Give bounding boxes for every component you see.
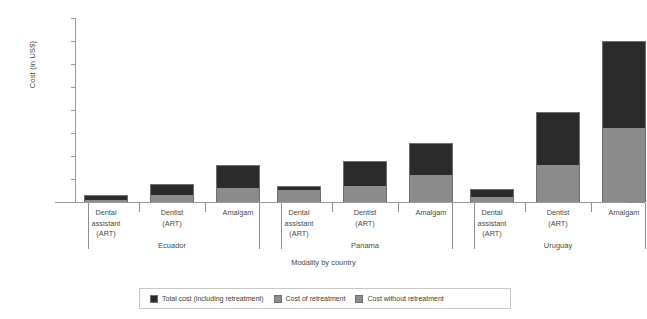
category-divider	[139, 203, 140, 212]
chart-legend: Total cost (including retreatment)Cost o…	[139, 288, 511, 309]
legend-item[interactable]: Cost without retreatment	[355, 295, 443, 303]
bar-uruguay-dentist-art-	[536, 112, 580, 202]
bar-segment-total-cost	[217, 166, 259, 188]
bar-segment-cost-without-retreatment	[217, 188, 259, 203]
category-label-line: (ART)	[268, 229, 330, 240]
category-label: Dentalassistant(ART)	[461, 208, 523, 240]
category-divider	[525, 203, 526, 212]
category-label-line: Amalgam	[207, 208, 269, 219]
y-axis-tickmark	[71, 41, 75, 42]
category-label-line: Dental	[461, 208, 523, 219]
category-divider	[398, 203, 399, 212]
category-label-line: Dentist	[527, 208, 589, 219]
legend-label: Cost of retreatment	[286, 295, 346, 302]
legend-item[interactable]: Total cost (including retreatment)	[150, 295, 264, 303]
category-divider	[591, 203, 592, 212]
category-label-line: (ART)	[527, 219, 589, 230]
category-label: Amalgam	[207, 208, 269, 219]
bar-segment-cost-without-retreatment	[344, 186, 386, 203]
category-divider	[332, 203, 333, 212]
category-label-line: (ART)	[461, 229, 523, 240]
bar-segment-total-cost	[151, 185, 193, 195]
category-label: Amalgam	[593, 208, 647, 219]
bar-ecuador-dental-assistant-art-	[84, 195, 128, 202]
bar-segment-total-cost	[344, 162, 386, 186]
category-label-line: (ART)	[75, 229, 137, 240]
group-label-panama: Panama	[305, 241, 425, 250]
legend-label: Total cost (including retreatment)	[162, 295, 264, 302]
group-label-uruguay: Uruguay	[498, 241, 618, 250]
stacked-bar-chart: Cost (in US$) $0$10,000$20,000$30,000$40…	[0, 0, 647, 319]
category-label-line: assistant	[268, 219, 330, 230]
y-axis-tickmark	[71, 64, 75, 65]
category-label-line: Dentist	[141, 208, 203, 219]
bar-ecuador-dentist-art-	[150, 184, 194, 202]
y-axis-tickmark	[71, 18, 75, 19]
category-label-line: (ART)	[334, 219, 396, 230]
category-label: Dentalassistant(ART)	[268, 208, 330, 240]
category-label-line: assistant	[75, 219, 137, 230]
y-axis-tickmark	[71, 202, 75, 203]
legend-swatch-icon	[274, 295, 282, 303]
bar-panama-dental-assistant-art-	[277, 186, 321, 202]
category-label-line: Amalgam	[400, 208, 462, 219]
plot-area	[76, 18, 627, 202]
group-label-ecuador: Ecuador	[112, 241, 232, 250]
category-label: Dentalassistant(ART)	[75, 208, 137, 240]
y-axis-tickmark	[71, 110, 75, 111]
bar-segment-total-cost	[603, 42, 645, 128]
category-label: Dentist(ART)	[141, 208, 203, 229]
y-axis-tickmark	[71, 87, 75, 88]
bar-uruguay-amalgam	[602, 41, 646, 202]
bar-segment-cost-without-retreatment	[537, 165, 579, 203]
category-label-line: assistant	[461, 219, 523, 230]
legend-swatch-icon	[355, 295, 363, 303]
category-axis: Dentalassistant(ART)Dentist(ART)AmalgamD…	[76, 203, 627, 258]
bar-segment-total-cost	[537, 113, 579, 165]
x-axis-label: Modality by country	[0, 258, 647, 267]
category-label: Dentist(ART)	[334, 208, 396, 229]
legend-label: Cost without retreatment	[367, 295, 443, 302]
bar-segment-total-cost	[410, 144, 452, 175]
bar-uruguay-dental-assistant-art-	[470, 189, 514, 202]
category-label: Dentist(ART)	[527, 208, 589, 229]
bar-segment-cost-without-retreatment	[603, 128, 645, 203]
y-axis-tickmark	[71, 156, 75, 157]
category-divider	[205, 203, 206, 212]
category-label-line: (ART)	[141, 219, 203, 230]
bar-segment-cost-without-retreatment	[410, 175, 452, 203]
y-axis-tickmark	[71, 179, 75, 180]
legend-item[interactable]: Cost of retreatment	[274, 295, 346, 303]
legend-swatch-icon	[150, 295, 158, 303]
bar-panama-amalgam	[409, 143, 453, 202]
category-label-line: Amalgam	[593, 208, 647, 219]
category-label-line: Dental	[75, 208, 137, 219]
category-label: Amalgam	[400, 208, 462, 219]
bar-segment-total-cost	[471, 190, 513, 197]
category-label-line: Dental	[268, 208, 330, 219]
y-axis-tick-labels: $0$10,000$20,000$30,000$40,000$50,000$60…	[0, 0, 70, 319]
category-label-line: Dentist	[334, 208, 396, 219]
bar-panama-dentist-art-	[343, 161, 387, 202]
bar-ecuador-amalgam	[216, 165, 260, 202]
y-axis-tickmark	[71, 133, 75, 134]
